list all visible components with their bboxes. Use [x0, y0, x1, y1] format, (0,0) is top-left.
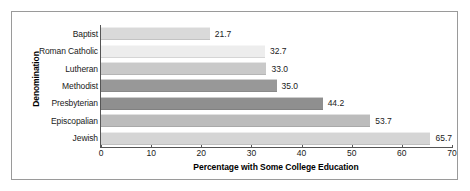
bar-value-label: 44.2	[328, 98, 345, 108]
bar-value-label: 33.0	[271, 64, 288, 74]
bar: 65.7	[101, 132, 430, 145]
bar-row: 65.7	[101, 130, 452, 147]
bar-value-label: 32.7	[270, 46, 287, 56]
x-tick-label: 20	[197, 148, 206, 158]
x-tick-label: 0	[99, 148, 104, 158]
bar: 33.0	[101, 62, 266, 75]
bar: 32.7	[101, 45, 265, 58]
x-tick-label: 70	[447, 148, 456, 158]
bar-value-label: 65.7	[435, 133, 452, 143]
bar-value-label: 53.7	[375, 116, 392, 126]
x-tick-label: 10	[146, 148, 155, 158]
bar-row: 33.0	[101, 60, 452, 77]
bar: 21.7	[101, 27, 210, 40]
category-label: Episcopalian	[32, 112, 98, 129]
chart-frame: Denomination BaptistRoman CatholicLuther…	[11, 11, 458, 180]
x-axis-title: Percentage with Some College Education	[100, 162, 452, 172]
category-label-column: BaptistRoman CatholicLutheranMethodistPr…	[32, 25, 98, 147]
x-tick-label: 50	[347, 148, 356, 158]
category-label: Presbyterian	[32, 95, 98, 112]
bar-row: 44.2	[101, 95, 452, 112]
category-label: Jewish	[32, 130, 98, 147]
x-tick-label: 30	[247, 148, 256, 158]
x-tick-label: 60	[397, 148, 406, 158]
bar: 35.0	[101, 79, 277, 92]
bar-series: 21.732.733.035.044.253.765.7	[101, 25, 452, 147]
category-label: Roman Catholic	[32, 42, 98, 59]
bar-row: 35.0	[101, 77, 452, 94]
x-tick-label: 40	[297, 148, 306, 158]
category-label: Methodist	[32, 77, 98, 94]
x-axis-ticks: 010203040506070	[100, 148, 452, 161]
bar-row: 32.7	[101, 42, 452, 59]
category-label: Lutheran	[32, 60, 98, 77]
plot-area: 21.732.733.035.044.253.765.7	[100, 25, 452, 147]
category-label: Baptist	[32, 25, 98, 42]
bar: 44.2	[101, 97, 323, 110]
bar-value-label: 21.7	[215, 29, 232, 39]
bar-row: 21.7	[101, 25, 452, 42]
bar: 53.7	[101, 114, 370, 127]
bar-value-label: 35.0	[282, 81, 299, 91]
bar-row: 53.7	[101, 112, 452, 129]
